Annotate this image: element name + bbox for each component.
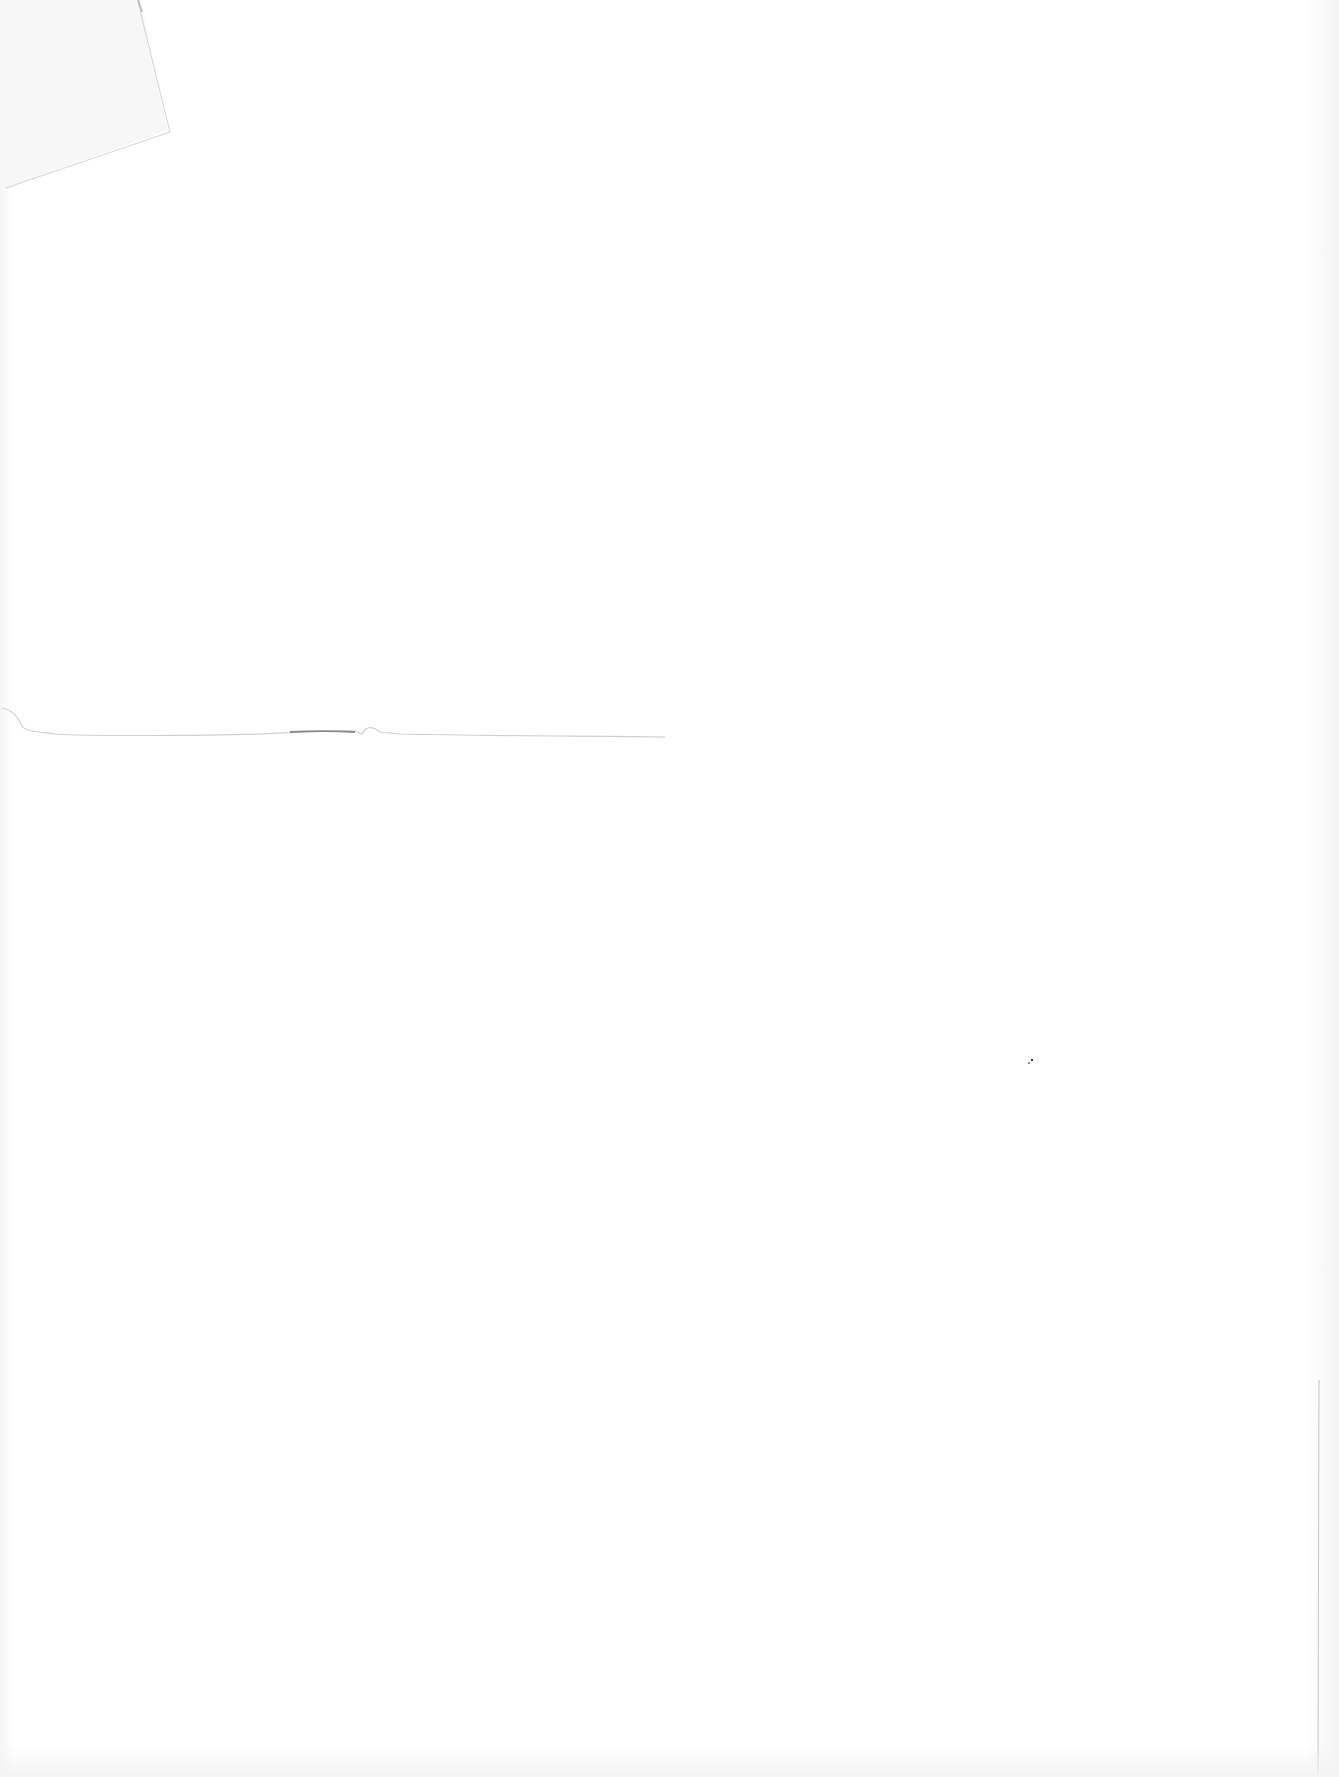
blank-page (0, 0, 1339, 1777)
page-bottom-shadow (0, 1747, 1339, 1777)
folded-corner (0, 0, 180, 200)
dust-speck (1026, 1057, 1036, 1067)
page-edge-line (1310, 1380, 1330, 1777)
stray-pencil-line (0, 690, 700, 750)
